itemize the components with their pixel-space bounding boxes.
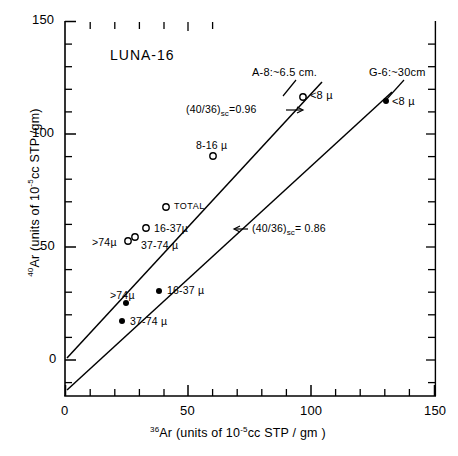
x-axis-isotope: 36 — [150, 425, 159, 434]
point-label-a8-16-37: 16-37µ — [154, 222, 188, 234]
y-major-ticks — [65, 22, 76, 361]
ratio-lower-subscript: sc — [287, 228, 295, 237]
ratio-annotation-upper: (40/36)sc=0.96 — [186, 103, 257, 118]
y-minor-ticks — [65, 44, 72, 383]
point-label-a8-total: TOTAL — [174, 201, 205, 211]
point-label-g6-16-37: 16-37 µ — [167, 284, 204, 296]
ratio-arrows — [234, 107, 303, 232]
point-a8-16-37 — [143, 225, 149, 231]
x-tick-150: 150 — [424, 403, 446, 418]
x-tick-100: 100 — [300, 403, 322, 418]
x-axis-element: Ar — [159, 426, 172, 440]
y-axis-title: 40Ar (units of 10-5cc STP /gm) — [26, 73, 41, 313]
series-header-a8: A-8:~6.5 cm. — [252, 66, 317, 78]
ratio-upper-subscript: sc — [221, 109, 229, 118]
y-tick-150: 150 — [32, 12, 54, 27]
regression-line-a8 — [67, 82, 322, 358]
chart-figure: LUNA-16 150 100 50 0 0 50 100 150 36Ar (… — [0, 0, 458, 456]
point-label-g6-gt74: >74µ — [110, 289, 135, 301]
ratio-upper-main: (40/36) — [186, 103, 221, 115]
ratio-lower-main: (40/36) — [252, 222, 287, 234]
point-a8-total — [163, 204, 169, 210]
point-label-g6-37-74: 37-74 µ — [130, 315, 167, 327]
x-axis-units-open: (units of 10 — [176, 426, 240, 440]
point-g6-lt8 — [383, 98, 389, 104]
x-axis-exponent: -5 — [240, 425, 248, 434]
point-label-a8-gt74: >74µ — [92, 236, 117, 248]
leader-a8 — [283, 80, 296, 96]
ratio-annotation-lower: (40/36)sc= 0.86 — [252, 222, 326, 237]
point-label-a8-8-16: 8-16 µ — [196, 139, 227, 151]
y-tick-0: 0 — [49, 351, 56, 366]
y-axis-units-tail: cc STP /gm) — [28, 108, 42, 179]
ratio-upper-tail: =0.96 — [229, 103, 257, 115]
y-axis-units-open: (units of 10 — [28, 187, 42, 251]
x-tick-0: 0 — [61, 403, 68, 418]
top-ticks — [90, 22, 212, 31]
y-axis-element: Ar — [28, 255, 42, 268]
series-header-g6: G-6:~30cm — [369, 66, 426, 78]
point-label-g6-lt8: <8 µ — [392, 95, 415, 107]
point-label-a8-lt8: <8 µ — [310, 89, 333, 101]
point-a8-lt8 — [300, 94, 306, 100]
x-axis-title: 36Ar (units of 10-5cc STP / gm ) — [150, 425, 326, 440]
y-axis-isotope: 40 — [26, 267, 35, 276]
plot-title: LUNA-16 — [110, 47, 175, 63]
point-label-a8-37-74: 37-74 µ — [141, 239, 178, 251]
point-a8-37-74 — [132, 234, 138, 240]
ratio-lower-tail: = 0.86 — [295, 222, 326, 234]
point-g6-37-74 — [119, 318, 125, 324]
point-a8-gt74 — [125, 238, 131, 244]
x-minor-ticks — [90, 389, 409, 396]
x-axis-units-tail: cc STP / gm ) — [248, 426, 326, 440]
right-ticks — [426, 44, 435, 383]
y-tick-50: 50 — [40, 238, 55, 253]
y-axis-exponent: -5 — [26, 179, 35, 187]
point-g6-16-37 — [156, 288, 162, 294]
point-a8-8-16 — [210, 153, 216, 159]
x-major-ticks — [66, 385, 435, 396]
x-tick-50: 50 — [180, 403, 195, 418]
